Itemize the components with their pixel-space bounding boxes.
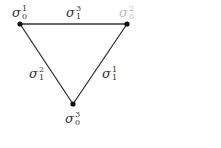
edge-left [20, 24, 73, 104]
vertex-bottom [70, 101, 75, 106]
edge-right [73, 24, 127, 104]
edge-label-top: σ31 [66, 5, 81, 21]
edge-label-left: σ21 [29, 66, 44, 82]
vertex-top-left [17, 21, 22, 26]
vertex-label-top-left: σ10 [12, 5, 27, 21]
label-symbol: σ [66, 5, 75, 20]
label-symbol: σ [29, 66, 38, 81]
label-sub: 0 [129, 13, 134, 21]
vertex-label-top-right: σ20 [119, 5, 134, 21]
label-sub: 1 [39, 74, 44, 82]
label-symbol: σ [102, 66, 111, 81]
vertex-label-bottom: σ30 [65, 111, 80, 127]
label-symbol: σ [119, 5, 128, 20]
label-sub: 0 [22, 13, 27, 21]
label-symbol: σ [65, 111, 74, 126]
label-sub: 1 [112, 74, 117, 82]
label-sub: 0 [75, 119, 80, 127]
vertex-top-right [124, 21, 129, 26]
label-sub: 1 [76, 13, 81, 21]
edge-label-right: σ11 [102, 66, 117, 82]
label-symbol: σ [12, 5, 21, 20]
